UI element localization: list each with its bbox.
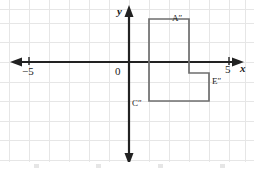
x-tick-label-neg5: −5 <box>22 66 34 77</box>
y-axis-label: y <box>117 6 122 17</box>
point-label-e: E″ <box>212 77 221 86</box>
coordinate-plane-figure: y x 0 −5 5 A″ E″ C″ <box>0 0 254 169</box>
point-label-c: C″ <box>132 99 142 108</box>
x-tick-label-5: 5 <box>225 64 231 75</box>
point-label-a: A″ <box>172 14 182 23</box>
page-bottom-margin <box>0 162 254 169</box>
polygon-outline <box>149 19 209 101</box>
origin-label: 0 <box>115 66 121 77</box>
x-axis-label: x <box>240 63 246 74</box>
cropped-text-artifact <box>8 164 246 168</box>
